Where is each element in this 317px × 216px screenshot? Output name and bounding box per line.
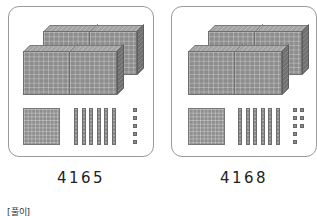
one-unit-icon [133, 116, 137, 120]
solution-heading: [풀이] [7, 205, 30, 216]
number-label-right: 4168 [171, 169, 317, 187]
hundred-flat-icon [188, 108, 225, 145]
one-unit-icon [300, 116, 304, 120]
thousand-cube-icon [69, 45, 117, 95]
ten-rod-icon [112, 108, 116, 145]
thousand-cubes-group [188, 25, 308, 101]
base-ten-blocks-card-4168 [171, 6, 317, 157]
ten-rod-icon [82, 108, 86, 145]
ten-rods-group [74, 108, 116, 145]
one-unit-icon [293, 108, 297, 112]
ten-rod-icon [261, 108, 265, 145]
one-unit-icon [133, 124, 137, 128]
one-unit-icon [133, 132, 137, 136]
one-unit-icon [293, 140, 297, 144]
thousand-cube-icon [188, 45, 236, 95]
thousand-cube-icon [23, 45, 71, 95]
ten-rod-icon [276, 108, 280, 145]
ten-rod-icon [97, 108, 101, 145]
one-unit-icon [293, 124, 297, 128]
ten-rod-icon [104, 108, 108, 145]
ten-rod-icon [246, 108, 250, 145]
ten-rod-icon [74, 108, 78, 145]
base-ten-blocks-card-4165 [8, 6, 154, 157]
one-unit-icon [293, 132, 297, 136]
one-unit-icon [300, 124, 304, 128]
thousand-cube-icon [234, 45, 282, 95]
ten-rods-group [238, 108, 280, 145]
one-unit-icon [293, 116, 297, 120]
one-units-group [293, 108, 304, 144]
one-unit-icon [133, 140, 137, 144]
one-unit-icon [300, 108, 304, 112]
hundred-flat-icon [23, 108, 60, 145]
ten-rod-icon [238, 108, 242, 145]
number-label-left: 4165 [8, 169, 154, 187]
thousand-cubes-group [23, 25, 143, 101]
ten-rod-icon [268, 108, 272, 145]
ten-rod-icon [253, 108, 257, 145]
ten-rod-icon [89, 108, 93, 145]
one-unit-icon [133, 108, 137, 112]
one-units-group [133, 108, 137, 144]
